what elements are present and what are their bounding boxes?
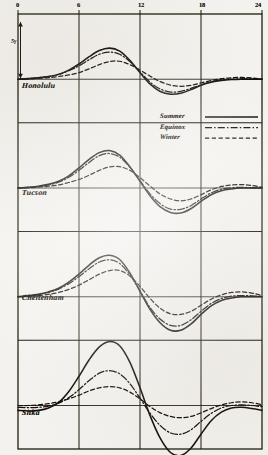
- x-tick-label-18: 18: [199, 1, 205, 8]
- panel-label-honolulu: Honolulu: [22, 81, 56, 90]
- x-tick-label-24: 24: [255, 1, 261, 8]
- panel-label-cheltenham: Cheltenham: [22, 293, 65, 302]
- legend-label-winter: Winter: [160, 133, 181, 140]
- x-tick-label-12: 12: [138, 1, 144, 8]
- magnetic-variation-figure: 0 6 12 18 24 5γ Honolulu Tucson Cheltenh…: [0, 0, 268, 455]
- legend-label-equinox: Equinox: [160, 123, 186, 130]
- panel-label-sitka: Sitka: [22, 408, 40, 417]
- scale-bar-label: 5γ: [11, 38, 17, 44]
- legend-label-summer: Summer: [160, 112, 185, 119]
- x-tick-label-0: 0: [16, 1, 19, 8]
- panel-label-tucson: Tucson: [22, 188, 48, 197]
- text-label-layer: 0 6 12 18 24 5γ Honolulu Tucson Cheltenh…: [0, 0, 268, 455]
- x-tick-label-6: 6: [77, 1, 80, 8]
